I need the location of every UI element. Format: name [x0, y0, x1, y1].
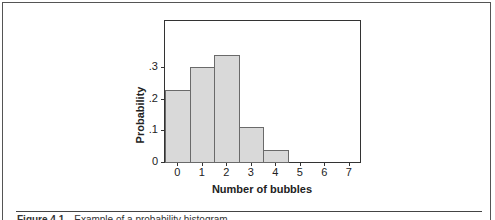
x-tick-label: 1 — [195, 166, 209, 178]
x-tick-label: 5 — [293, 166, 307, 178]
y-axis-label: Probability — [134, 87, 146, 144]
x-tick-label: 2 — [219, 166, 233, 178]
histogram-bar — [214, 55, 240, 163]
x-tick-label: 3 — [244, 166, 258, 178]
histogram-bar — [165, 90, 191, 163]
caption-text: Example of a probability histogram — [74, 214, 227, 220]
caption-label: Figure 4.1 — [17, 214, 64, 220]
x-tick-label: 0 — [170, 166, 184, 178]
caption-divider — [16, 211, 482, 212]
histogram-bar — [190, 67, 216, 163]
x-axis-label: Number of bubbles — [212, 183, 312, 195]
y-tick — [161, 99, 164, 100]
figure-caption: Figure 4.1Example of a probability histo… — [17, 214, 228, 220]
y-tick — [161, 130, 164, 131]
x-tick-label: 6 — [317, 166, 331, 178]
histogram-bar — [239, 127, 265, 163]
y-tick — [161, 67, 164, 68]
y-tick-label: 0 — [138, 155, 158, 167]
y-tick-label: .3 — [138, 60, 158, 72]
y-tick — [161, 162, 164, 163]
x-tick-label: 7 — [342, 166, 356, 178]
x-tick-label: 4 — [268, 166, 282, 178]
histogram-bar — [263, 150, 289, 163]
